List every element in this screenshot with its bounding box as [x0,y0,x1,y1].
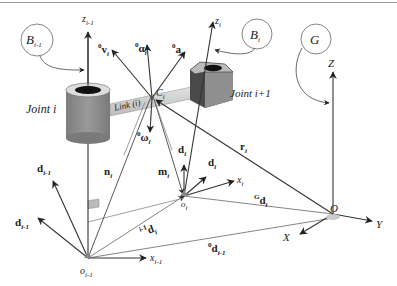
ddot-d-prev-label: di-1 [15,217,29,228]
o-i-label: oi [181,200,187,209]
joint-i1-label: Joint i+1 [230,88,271,99]
frame-g-label: G [310,33,319,46]
a-i-label: 0ai [172,44,183,55]
o-prev-label: oi-1 [80,266,93,276]
frame-pointer-b-prev [40,56,84,70]
frame-pointer-b-i [215,48,255,54]
g-d-i-label: Gdi [254,195,268,206]
z-i-axis [184,22,213,196]
d-prev-0-label: 0di-1 [208,243,225,254]
z-i-label: zi [215,16,221,26]
r-i-label: ri [240,141,247,152]
x-prev-label: xi-1 [150,253,162,263]
joint-i-label: Joint i [26,103,56,115]
joint-i-cylinder [66,83,110,144]
v-i-label: 0vi [98,44,109,55]
joint-i1-hex [190,62,233,108]
link-kinematics-diagram [0,0,397,286]
frame-b-prev-label: Bi-1 [26,33,42,46]
center-c-label: Ci [156,88,165,98]
global-x-label: X [283,232,290,243]
origin-global-label: O [330,203,338,214]
m-i-label: mi [158,166,169,177]
n-i-label: ni [104,166,112,177]
alpha-i-label: 0αi [135,43,147,54]
omega-i-label: 0ωi [137,132,151,143]
global-y-label: Y [376,219,382,230]
x-i-label: xi [237,175,243,185]
ddot-d-i-label: di [178,144,186,155]
dot-d-i-label: di [208,157,216,168]
frame-b-i-label: Bi [250,28,260,41]
frame-pointer-g [296,48,329,103]
z-prev-label: zi-1 [82,14,94,24]
global-z-label: Z [328,58,334,69]
right-angle-marker [88,199,99,209]
dot-d-prev-label: di-1 [37,163,51,174]
